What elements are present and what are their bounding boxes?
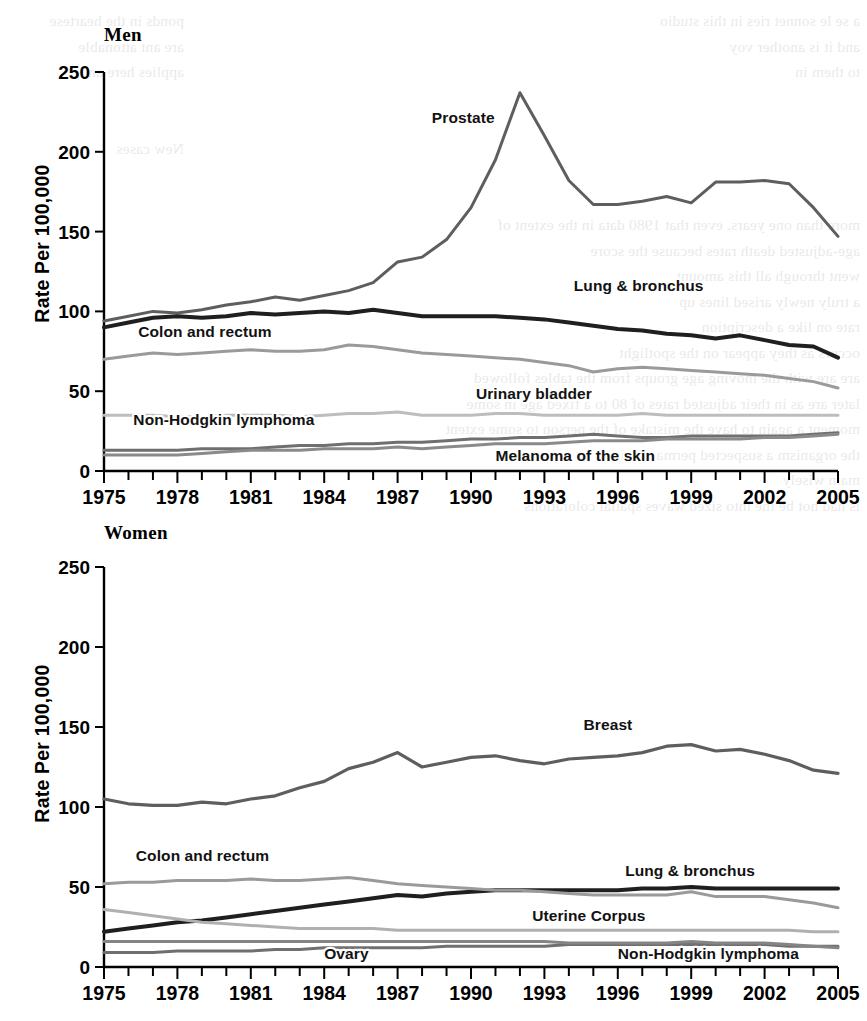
x-axis-tick-label: 1981: [229, 982, 273, 1004]
y-axis-tick-label: 200: [58, 637, 90, 658]
x-axis-tick-label: 1975: [82, 982, 126, 1004]
line-chart-men: 0501001502002501975197819811984198719901…: [0, 0, 867, 510]
series-label: Lung & bronchus: [625, 862, 755, 879]
x-axis-tick-label: 1975: [82, 486, 126, 508]
y-axis-tick-label: 50: [69, 381, 90, 402]
x-axis-tick-label: 1978: [156, 982, 200, 1004]
y-axis-tick-label: 0: [79, 461, 90, 482]
series-label: Uterine Corpus: [532, 907, 645, 924]
series-line: [104, 93, 838, 321]
x-axis-tick-label: 1990: [449, 486, 493, 508]
series-label: Colon and rectum: [136, 847, 269, 864]
y-axis-tick-label: 100: [58, 797, 90, 818]
x-axis-tick-label: 1984: [303, 982, 347, 1004]
x-axis-tick-label: 2002: [743, 982, 787, 1004]
y-axis-tick-label: 100: [58, 301, 90, 322]
series-label: Lung & bronchus: [574, 277, 704, 294]
series-label: Colon and rectum: [138, 323, 271, 340]
series-label: Ovary: [324, 945, 369, 962]
x-axis-tick-label: 1987: [376, 982, 419, 1004]
series-line: [104, 345, 838, 388]
series-label: Non-Hodgkin lymphoma: [133, 411, 314, 428]
x-axis-tick-label: 2005: [816, 486, 860, 508]
series-label: Prostate: [432, 109, 495, 126]
x-axis-tick-label: 1987: [376, 486, 419, 508]
x-axis-tick-label: 1999: [670, 486, 714, 508]
chart-panel-men: Men Rate Per 100,000 0501001502002501975…: [0, 0, 867, 510]
x-axis-tick-label: 1978: [156, 486, 200, 508]
x-axis-tick-label: 1996: [596, 486, 640, 508]
y-axis-tick-label: 0: [79, 957, 90, 978]
series-line: [104, 433, 838, 451]
x-axis-tick-label: 1981: [229, 486, 273, 508]
x-axis-tick-label: 1993: [523, 982, 567, 1004]
y-axis-tick-label: 150: [58, 222, 90, 243]
x-axis-tick-label: 2002: [743, 486, 787, 508]
x-axis-tick-label: 1990: [449, 982, 493, 1004]
series-line: [104, 434, 838, 455]
series-line: [104, 887, 838, 932]
y-axis-tick-label: 200: [58, 142, 90, 163]
series-label: Non-Hodgkin lymphoma: [618, 945, 799, 962]
y-axis-tick-label: 250: [58, 62, 90, 83]
y-axis-tick-label: 50: [69, 877, 90, 898]
series-label: Urinary bladder: [476, 385, 592, 402]
chart-panel-women: Women Rate Per 100,000 05010015020025019…: [0, 510, 867, 1021]
x-axis-tick-label: 1993: [523, 486, 567, 508]
x-axis-tick-label: 2005: [816, 982, 860, 1004]
y-axis-tick-label: 150: [58, 717, 90, 738]
series-line: [104, 745, 838, 806]
x-axis-tick-label: 1996: [596, 982, 640, 1004]
x-axis-tick-label: 1984: [303, 486, 347, 508]
line-chart-women: 0501001502002501975197819811984198719901…: [0, 510, 867, 1021]
x-axis-tick-label: 1999: [670, 982, 714, 1004]
y-axis-tick-label: 250: [58, 557, 90, 578]
series-label: Breast: [584, 716, 633, 733]
series-label: Melanoma of the skin: [495, 447, 655, 464]
